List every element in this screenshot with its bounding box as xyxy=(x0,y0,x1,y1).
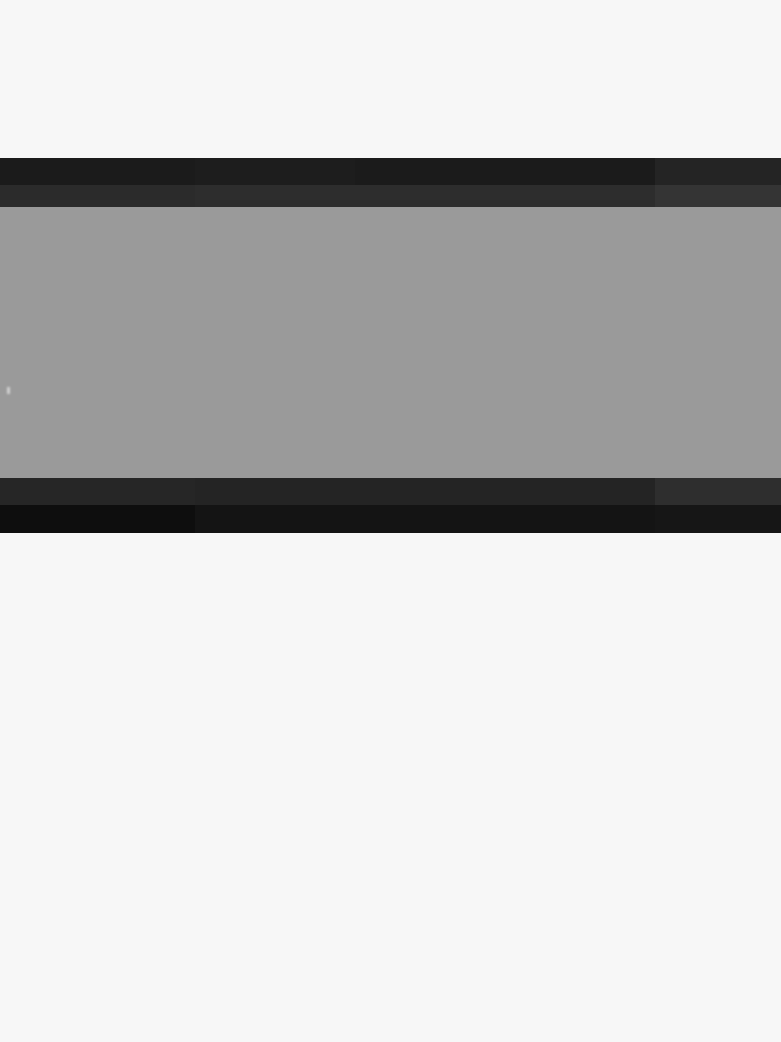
text-caret xyxy=(7,387,10,394)
header-segment-left[interactable] xyxy=(0,158,195,185)
toolbar-segment-left[interactable] xyxy=(0,185,195,207)
footer-strip-segment-left[interactable] xyxy=(0,478,195,505)
header-segment-second[interactable] xyxy=(195,158,355,185)
page-bottom-empty-area xyxy=(0,533,781,1042)
footer-bar-segment-center[interactable] xyxy=(195,505,655,533)
header-segment-third[interactable] xyxy=(355,158,655,185)
footer-strip-segment-right[interactable] xyxy=(655,478,781,505)
toolbar-segment-right[interactable] xyxy=(655,185,781,207)
application-window[interactable] xyxy=(0,158,781,533)
page-top-empty-area xyxy=(0,0,781,158)
window-toolbar[interactable] xyxy=(0,185,781,207)
header-segment-right[interactable] xyxy=(655,158,781,185)
footer-strip-segment-center[interactable] xyxy=(195,478,655,505)
footer-bar-segment-left[interactable] xyxy=(0,505,195,533)
content-viewport[interactable] xyxy=(0,207,781,478)
window-footer-bar[interactable] xyxy=(0,505,781,533)
window-header-bar[interactable] xyxy=(0,158,781,185)
toolbar-segment-center[interactable] xyxy=(195,185,655,207)
footer-bar-segment-right[interactable] xyxy=(655,505,781,533)
window-footer-strip[interactable] xyxy=(0,478,781,505)
